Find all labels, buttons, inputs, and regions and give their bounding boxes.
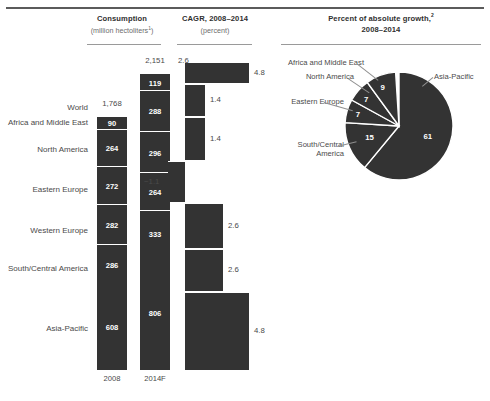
pie-label-south-central-line1: South/Central [298,140,344,149]
exhibit-canvas: Consumption (million hectoliters1) CAGR,… [0,0,490,401]
cagr-bar [168,161,185,202]
cagr-bar-value: −1.1 [144,177,159,186]
cagr-bar [185,63,249,83]
pie-label-asia-pacific: Asia-Pacific [434,72,474,81]
pie-slice-value: 7 [356,110,360,119]
cagr-bar-value: 4.8 [254,326,265,335]
pie-label-north-america: North America [258,72,354,81]
pie-label-south-central-line2: America [316,149,344,158]
cagr-bar [185,203,223,248]
cagr-bar [185,249,223,291]
cagr-bar-value: 1.4 [210,134,221,143]
pie-slice-value: 61 [423,132,432,141]
pie-slice-value: 9 [380,83,384,92]
pie-label-south-central-america: South/Central America [256,140,344,158]
cagr-bar [185,117,205,160]
cagr-chart: 2.6 4.81.41.4−1.12.62.64.8 [0,0,490,401]
cagr-bar-value: 1.4 [210,95,221,104]
cagr-bar-value: 2.6 [228,221,239,230]
cagr-bar [185,292,249,370]
cagr-bar [185,84,205,116]
pie-slice-value: 7 [364,95,368,104]
pie-slice-value: 15 [365,133,374,142]
pie-label-africa: Africa and Middle East [268,58,364,67]
cagr-bar-value: 2.6 [228,265,239,274]
